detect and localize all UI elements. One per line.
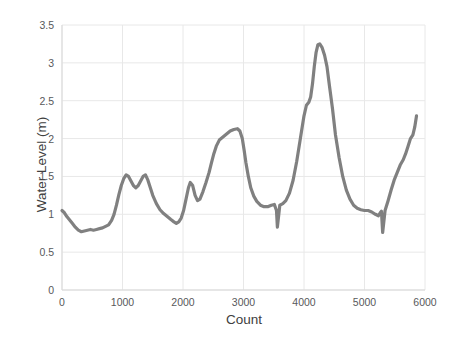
x-tick-label: 3000 (232, 296, 255, 308)
water-level-chart: 00.511.522.533.5010002000300040005000600… (0, 0, 463, 340)
x-axis-title: Count (62, 312, 426, 327)
y-axis-title: Water Level (m) (34, 70, 49, 260)
y-tick-label: 3.5 (14, 19, 54, 31)
y-tick-label: 0 (14, 284, 54, 296)
x-tick-label: 6000 (413, 296, 436, 308)
x-tick-label: 2000 (171, 296, 194, 308)
y-tick-label: 3 (14, 57, 54, 69)
x-tick-label: 1000 (111, 296, 134, 308)
x-tick-label: 0 (59, 296, 65, 308)
x-tick-label: 5000 (353, 296, 376, 308)
plot-canvas (0, 0, 463, 340)
grid-lines (62, 25, 425, 290)
x-tick-label: 4000 (292, 296, 315, 308)
